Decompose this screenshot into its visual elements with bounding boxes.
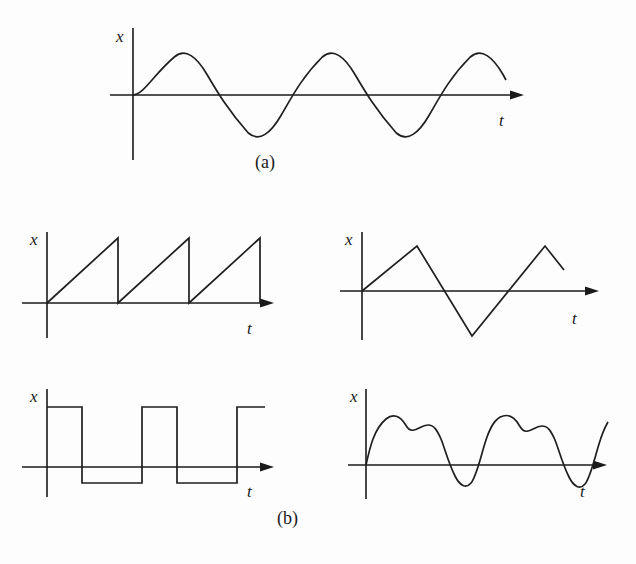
x-axis-arrow-icon [260, 463, 274, 472]
x-axis-label: t [572, 309, 578, 328]
y-axis-label: x [115, 27, 124, 46]
chart-sine-wave: x t [110, 18, 530, 168]
chart-triangular-wave: x t [340, 228, 610, 353]
x-axis-label: t [499, 111, 505, 130]
x-axis-arrow-icon [585, 287, 599, 296]
y-axis-label: x [344, 230, 353, 249]
x-axis-arrow-icon [593, 461, 607, 470]
y-axis-label: x [29, 230, 38, 249]
x-axis-arrow-icon [260, 299, 274, 308]
x-axis-label: t [247, 319, 253, 338]
caption-a: (a) [255, 152, 275, 173]
sawtooth-waveform-curve [47, 238, 260, 303]
y-axis-label: x [29, 387, 38, 406]
chart-sawtooth-wave: x t [22, 228, 282, 348]
waveform-figure: x t (a) x t x t x t x [0, 0, 636, 564]
chart-complex-wave: x t [348, 385, 618, 510]
x-axis-arrow-icon [510, 91, 524, 100]
x-axis-label: t [247, 482, 253, 501]
caption-b: (b) [277, 508, 298, 529]
y-axis-label: x [349, 387, 358, 406]
square-waveform-curve [47, 407, 265, 483]
complex-waveform-curve [366, 415, 608, 487]
chart-square-wave: x t [22, 385, 282, 505]
